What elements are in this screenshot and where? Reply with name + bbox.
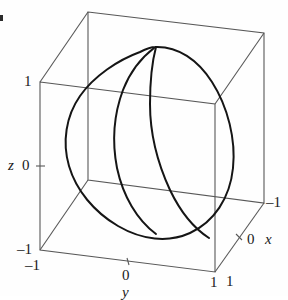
scan-artifact-mark	[0, 15, 3, 21]
x-tick-label-1: 1	[226, 274, 234, 289]
y-tick-label-minus1: –1	[25, 258, 40, 273]
curve-inner-branch-right	[150, 47, 209, 238]
box-edge-top-right	[215, 33, 264, 104]
y-axis-label: y	[122, 285, 129, 300]
y-tick-label-0: 0	[122, 268, 130, 283]
x-tick-label-0: 0	[247, 232, 255, 247]
curve-outer-loop	[66, 47, 234, 239]
x-tick-label-minus1: –1	[266, 195, 281, 210]
z-tick-label-1: 1	[24, 74, 32, 89]
space-curve	[66, 47, 234, 239]
box-edge-top-left	[40, 12, 88, 82]
x-axis-label: x	[265, 232, 272, 247]
box-front-face	[40, 82, 215, 272]
z-axis-label: z	[8, 158, 14, 173]
tick-marks	[36, 166, 242, 265]
z-tick-label-0: 0	[22, 158, 30, 173]
box-back-face	[88, 12, 264, 203]
y-tick-label-1: 1	[210, 275, 218, 290]
bounding-box-wireframe	[40, 12, 264, 272]
curve-inner-branch-left	[114, 48, 156, 234]
z-tick-label-minus1: –1	[17, 242, 32, 257]
